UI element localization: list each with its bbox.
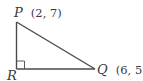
- triangle-diagram: P (2, 7) R Q (6, 5): [0, 0, 143, 81]
- label-p: P (2, 7): [13, 2, 62, 21]
- right-angle-marker: [17, 61, 25, 69]
- point-p-coords: (2, 7): [31, 6, 62, 20]
- label-q: Q (6, 5): [97, 59, 143, 78]
- point-q-name: Q: [97, 62, 108, 77]
- side-pq: [17, 22, 96, 69]
- point-p-name: P: [13, 5, 23, 20]
- point-r-name: R: [6, 68, 17, 81]
- triangle: [17, 22, 96, 69]
- point-q-coords: (6, 5): [116, 63, 143, 77]
